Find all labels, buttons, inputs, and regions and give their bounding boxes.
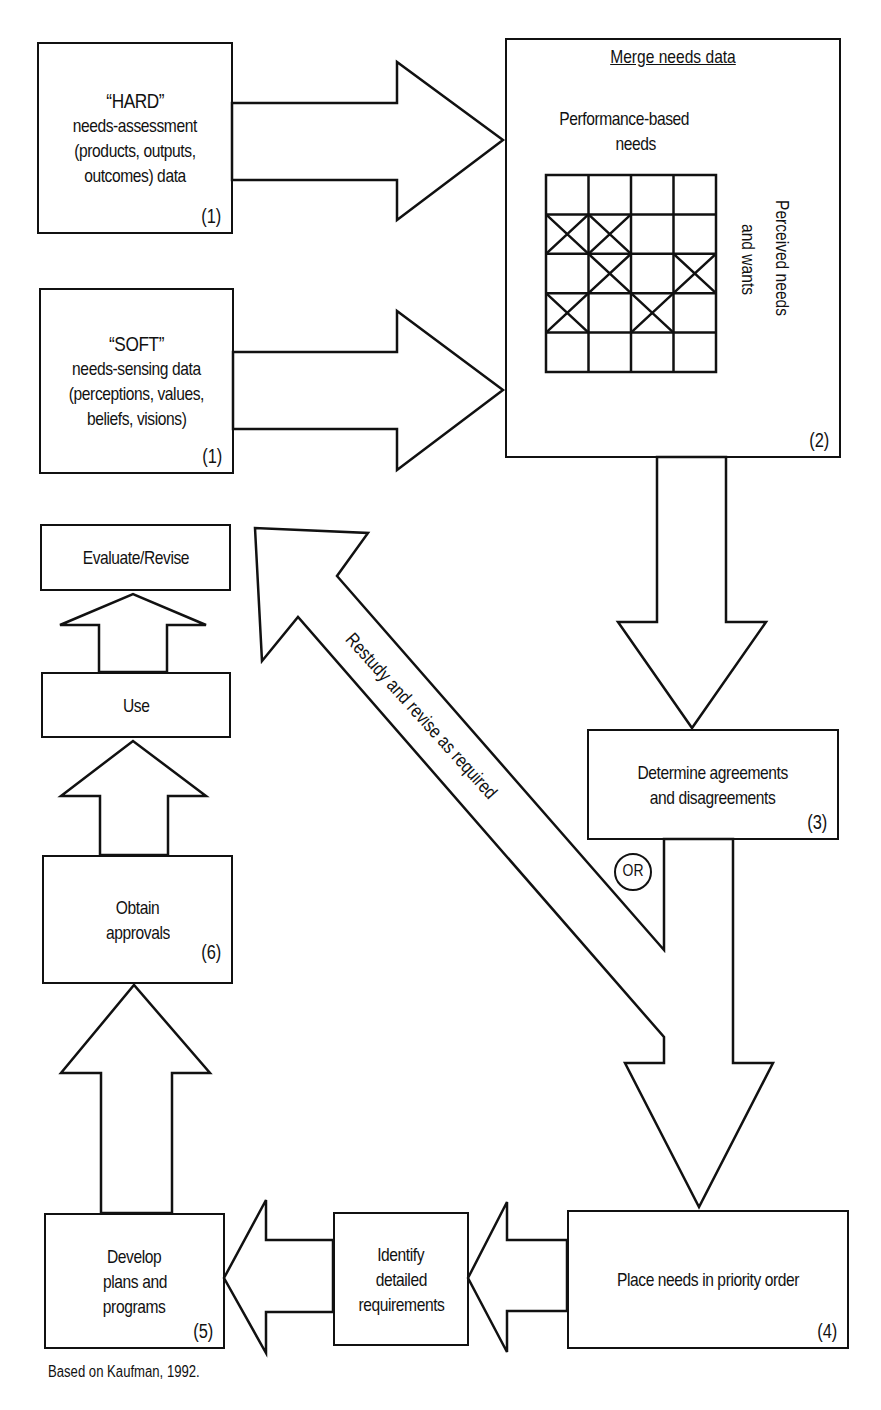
determine-agreements-box: Determine agreements and disagreements (… xyxy=(587,729,839,840)
arrow-develop-to-approvals xyxy=(61,985,210,1213)
arrow-hard-to-merge xyxy=(232,62,503,220)
step-number: (4) xyxy=(817,1320,837,1343)
performance-label: Performance-based xyxy=(559,106,689,131)
hard-line-1: needs-assessment xyxy=(73,113,197,138)
identify-line-3: requirements xyxy=(358,1292,444,1317)
arrow-soft-to-merge xyxy=(233,311,503,470)
develop-line-3: programs xyxy=(103,1294,166,1319)
or-label: OR xyxy=(622,861,643,881)
approvals-line-2: approvals xyxy=(106,920,170,945)
identify-line-2: detailed xyxy=(375,1267,426,1292)
source-caption: Based on Kaufman, 1992. xyxy=(48,1363,200,1381)
arrow-priority-to-identify xyxy=(468,1202,567,1352)
develop-line-2: plans and xyxy=(103,1269,167,1294)
step-number: (5) xyxy=(193,1320,213,1343)
priority-order-box: Place needs in priority order (4) xyxy=(567,1210,849,1349)
hard-title: “HARD” xyxy=(106,88,164,113)
identify-requirements-box: Identify detailed requirements xyxy=(333,1212,469,1346)
soft-line-2: (perceptions, values, xyxy=(69,381,204,406)
approvals-line-1: Obtain xyxy=(116,895,159,920)
develop-line-1: Develop xyxy=(107,1244,161,1269)
hard-data-box: “HARD” needs-assessment (products, outpu… xyxy=(37,42,233,234)
soft-line-1: needs-sensing data xyxy=(72,356,201,381)
use-label: Use xyxy=(123,693,149,718)
step-number: (2) xyxy=(809,429,829,452)
performance-label-2: needs xyxy=(615,131,655,156)
step-number: (1) xyxy=(202,445,222,468)
hard-line-2: (products, outputs, xyxy=(74,138,195,163)
merge-title: Merge needs data xyxy=(537,46,809,68)
perceived-label-2: and wants xyxy=(736,224,760,295)
use-box: Use xyxy=(41,672,231,738)
priority-label: Place needs in priority order xyxy=(617,1267,799,1292)
arrow-approvals-to-use xyxy=(61,741,206,855)
arrow-use-to-evaluate xyxy=(60,594,206,672)
arrow-identify-to-develop xyxy=(224,1200,333,1353)
develop-plans-box: Develop plans and programs (5) xyxy=(44,1213,225,1349)
arrow-merge-to-determine xyxy=(618,457,766,728)
identify-line-1: Identify xyxy=(378,1242,425,1267)
determine-line-2: and disagreements xyxy=(650,785,776,810)
step-number: (3) xyxy=(807,811,827,834)
step-number: (6) xyxy=(201,941,221,964)
evaluate-revise-box: Evaluate/Revise xyxy=(40,524,231,591)
soft-data-box: “SOFT” needs-sensing data (perceptions, … xyxy=(39,288,234,474)
step-number: (1) xyxy=(201,205,221,228)
evaluate-label: Evaluate/Revise xyxy=(82,545,188,570)
perceived-label: Perceived needs xyxy=(770,200,794,316)
soft-title: “SOFT” xyxy=(109,331,164,356)
hard-line-3: outcomes) data xyxy=(84,163,186,188)
determine-line-1: Determine agreements xyxy=(638,760,788,785)
obtain-approvals-box: Obtain approvals (6) xyxy=(42,855,233,984)
soft-line-3: beliefs, visions) xyxy=(87,406,187,431)
